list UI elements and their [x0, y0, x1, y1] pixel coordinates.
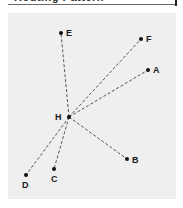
node-label-c: C	[51, 174, 58, 184]
route-line-h-f	[69, 39, 141, 117]
node-label-b: B	[132, 155, 139, 165]
route-line-h-c	[54, 117, 69, 169]
route-line-h-e	[61, 33, 69, 117]
node-dot-h	[67, 115, 71, 119]
node-dot-c	[52, 167, 56, 171]
node-dot-a	[146, 68, 150, 72]
node-label-d: D	[22, 180, 29, 190]
routing-diagram: HEFABCD	[0, 0, 183, 208]
route-line-h-a	[69, 70, 148, 117]
route-line-h-d	[26, 117, 69, 175]
node-label-a: A	[153, 65, 160, 75]
route-line-h-b	[69, 117, 127, 159]
node-dot-f	[139, 37, 143, 41]
node-dot-d	[24, 173, 28, 177]
node-label-h: H	[55, 112, 62, 122]
node-label-e: E	[66, 28, 72, 38]
node-dot-b	[125, 157, 129, 161]
node-label-f: F	[146, 34, 152, 44]
node-dot-e	[59, 31, 63, 35]
